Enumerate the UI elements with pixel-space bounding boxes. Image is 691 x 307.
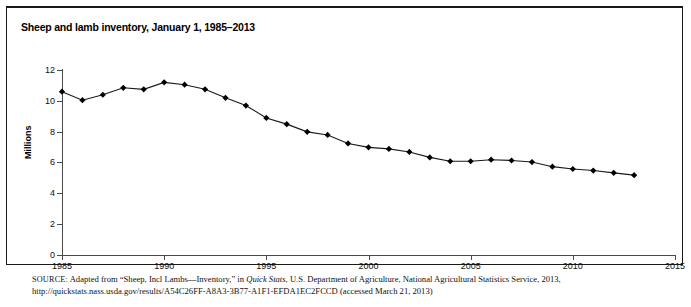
data-point-1988 <box>120 84 126 90</box>
x-tick-label-1990: 1990 <box>154 261 174 271</box>
data-point-2007 <box>508 157 514 163</box>
data-point-2005 <box>468 158 474 164</box>
series-line <box>62 82 634 175</box>
source-label: SOURCE: <box>32 275 68 284</box>
chart-plot-area: 024681012 1985199019952000200520102015 <box>62 70 675 256</box>
data-point-1992 <box>202 86 208 92</box>
x-tick-label-2010: 2010 <box>563 261 583 271</box>
x-tick-1995 <box>266 255 267 260</box>
x-tick-2010 <box>573 255 574 260</box>
x-tick-label-2015: 2015 <box>665 261 685 271</box>
figure-title: Sheep and lamb inventory, January 1, 198… <box>21 21 255 33</box>
source-line1-part1: Adapted from “Sheep, Incl Lambs—Inventor… <box>68 274 246 284</box>
figure-page: Sheep and lamb inventory, January 1, 198… <box>0 0 691 307</box>
source-line1-part2: , U.S. Department of Agriculture, Nation… <box>286 274 561 284</box>
x-tick-1985 <box>62 255 63 260</box>
data-point-1994 <box>243 102 249 108</box>
y-tick-label-6: 6 <box>50 157 55 167</box>
y-tick-label-0: 0 <box>50 250 55 260</box>
x-tick-2015 <box>675 255 676 260</box>
data-point-1989 <box>141 86 147 92</box>
x-tick-label-1995: 1995 <box>256 261 276 271</box>
data-point-1991 <box>182 81 188 87</box>
data-point-2010 <box>570 166 576 172</box>
y-tick-label-8: 8 <box>50 127 55 137</box>
figure-top-rule <box>7 7 682 8</box>
x-tick-1990 <box>164 255 165 260</box>
y-axis-title: Millions <box>23 126 33 160</box>
y-tick-label-2: 2 <box>50 219 55 229</box>
data-point-1987 <box>100 91 106 97</box>
data-point-1998 <box>325 132 331 138</box>
data-point-2002 <box>406 149 412 155</box>
data-point-1999 <box>345 140 351 146</box>
data-point-2012 <box>611 169 617 175</box>
figure-border-box: Sheep and lamb inventory, January 1, 198… <box>6 6 683 265</box>
data-point-1996 <box>284 121 290 127</box>
y-tick-label-10: 10 <box>45 96 55 106</box>
x-tick-2005 <box>471 255 472 260</box>
data-point-1997 <box>304 128 310 134</box>
data-point-1986 <box>79 97 85 103</box>
data-point-2011 <box>590 167 596 173</box>
source-url[interactable]: http://quickstats.nass.usda.gov/results/… <box>32 286 338 296</box>
source-publication-title: Quick Stats <box>246 274 285 284</box>
data-point-2009 <box>549 163 555 169</box>
data-point-2013 <box>631 172 637 178</box>
data-point-2001 <box>386 145 392 151</box>
data-point-1995 <box>263 115 269 121</box>
x-tick-2000 <box>369 255 370 260</box>
source-note: SOURCE: Adapted from “Sheep, Incl Lambs—… <box>32 274 672 297</box>
series-sheep-inventory <box>62 70 675 256</box>
data-point-2000 <box>365 144 371 150</box>
data-point-1990 <box>161 79 167 85</box>
data-point-2003 <box>427 154 433 160</box>
data-point-2006 <box>488 156 494 162</box>
y-tick-label-12: 12 <box>45 65 55 75</box>
source-access-date: (accessed March 21, 2013) <box>338 286 433 296</box>
data-point-1985 <box>59 88 65 94</box>
x-tick-label-2005: 2005 <box>461 261 481 271</box>
data-point-1993 <box>222 94 228 100</box>
data-point-2008 <box>529 159 535 165</box>
data-point-2004 <box>447 158 453 164</box>
y-tick-label-4: 4 <box>50 188 55 198</box>
x-tick-label-1985: 1985 <box>52 261 72 271</box>
x-tick-label-2000: 2000 <box>358 261 378 271</box>
